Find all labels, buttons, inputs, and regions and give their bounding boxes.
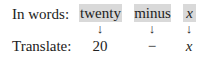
word-term-x: x xyxy=(183,4,196,22)
word-term-minus: minus xyxy=(134,4,171,22)
down-arrow-icon: ↓ xyxy=(182,22,196,36)
translate-value-minus: − xyxy=(145,37,159,55)
translate-label: Translate: xyxy=(12,37,71,55)
down-arrow-icon: ↓ xyxy=(93,22,107,36)
translate-value-20: 20 xyxy=(90,37,110,55)
down-arrow-icon: ↓ xyxy=(145,22,159,36)
word-term-twenty: twenty xyxy=(79,4,122,22)
translate-value-x: x xyxy=(182,37,196,55)
in-words-label: In words: xyxy=(12,5,69,23)
